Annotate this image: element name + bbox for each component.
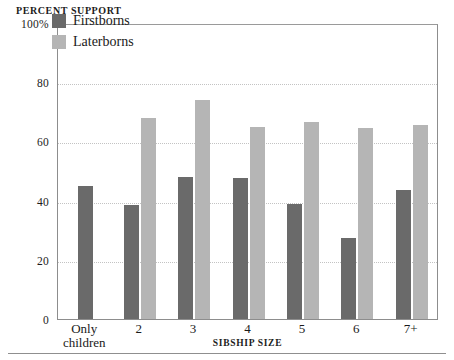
legend-label-firstborns: Firstborns	[73, 14, 130, 28]
bar-firstborns-5	[287, 204, 302, 319]
x-axis-tick-only-children: Only children	[49, 322, 119, 350]
legend-swatch-icon-firstborns	[52, 14, 66, 28]
bar-firstborns-only-children	[78, 186, 93, 319]
bar-laterborns-2	[141, 118, 156, 319]
legend: Firstborns Laterborns	[52, 12, 134, 54]
bar-laterborns-4	[250, 127, 265, 319]
bar-laterborns-7+	[413, 125, 428, 319]
bottom-divider	[8, 353, 446, 354]
bar-firstborns-2	[124, 205, 139, 319]
x-axis-tick-4: 4	[244, 322, 251, 336]
chart-figure: PERCENT SUPPORT 020406080100% Firstborns…	[0, 0, 454, 360]
y-axis-tick-0: 0	[43, 314, 49, 326]
y-axis-tick-labels: 020406080100%	[0, 0, 57, 360]
y-axis-tick-40: 40	[37, 196, 49, 208]
y-axis-tick-80: 80	[37, 77, 49, 89]
x-axis-tick-3: 3	[190, 322, 197, 336]
legend-item-laterborns: Laterborns	[52, 33, 134, 50]
y-axis-tick-60: 60	[37, 136, 49, 148]
bar-firstborns-3	[178, 177, 193, 319]
legend-swatch-icon-laterborns	[52, 35, 66, 49]
bar-laterborns-6	[358, 128, 373, 319]
y-axis-tick-100%: 100%	[21, 18, 49, 30]
x-axis-tick-7+: 7+	[404, 322, 418, 336]
bar-firstborns-4	[233, 178, 248, 319]
plot-area	[57, 24, 438, 320]
bar-laterborns-5	[304, 122, 319, 319]
legend-item-firstborns: Firstborns	[52, 12, 134, 29]
bar-firstborns-6	[341, 238, 356, 319]
x-axis-tick-5: 5	[299, 322, 306, 336]
bar-firstborns-7+	[396, 190, 411, 319]
bars-layer	[58, 25, 437, 319]
bar-laterborns-3	[195, 100, 210, 319]
y-axis-tick-20: 20	[37, 255, 49, 267]
x-axis-tick-labels: SIBSHIP SIZE Only children234567+	[57, 322, 438, 360]
x-axis-title: SIBSHIP SIZE	[213, 338, 282, 348]
x-axis-tick-2: 2	[135, 322, 142, 336]
legend-label-laterborns: Laterborns	[73, 35, 134, 49]
x-axis-tick-6: 6	[353, 322, 360, 336]
